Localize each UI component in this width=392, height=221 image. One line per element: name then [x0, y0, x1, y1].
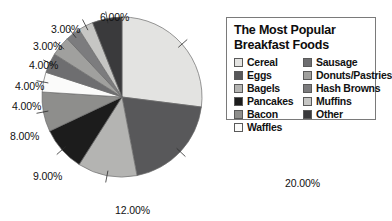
legend-swatch-icon	[234, 123, 243, 132]
pie-percentage-label: 4.00%	[29, 60, 58, 71]
legend-swatch-icon	[234, 84, 243, 93]
legend-swatch-icon	[234, 110, 243, 119]
pie-percentage-label: 3.00%	[33, 41, 62, 52]
legend-item[interactable]: Donuts/Pastries	[303, 70, 369, 82]
legend-item-label: Waffles	[247, 122, 282, 133]
legend: The Most Popular Breakfast Foods CerealE…	[226, 17, 376, 120]
legend-item[interactable]: Pancakes	[234, 96, 297, 108]
legend-item-label: Eggs	[247, 70, 272, 81]
legend-swatch-icon	[303, 97, 312, 106]
legend-swatch-icon	[303, 110, 312, 119]
legend-swatch-icon	[303, 84, 312, 93]
legend-item-label: Bagels	[247, 83, 280, 94]
legend-item[interactable]: Bacon	[234, 109, 297, 121]
legend-item-label: Cereal	[247, 57, 278, 68]
pie-percentage-label: 8.00%	[10, 131, 39, 142]
legend-item[interactable]: Hash Browns	[303, 83, 369, 95]
legend-title-line-1: The Most Popular	[234, 23, 369, 38]
legend-swatch-icon	[234, 71, 243, 80]
legend-item[interactable]: Cereal	[234, 57, 297, 69]
legend-item-label: Donuts/Pastries	[316, 70, 392, 81]
legend-item[interactable]: Waffles	[234, 122, 297, 134]
legend-item-label: Other	[316, 109, 343, 120]
pie-percentage-label: 9.00%	[33, 171, 62, 182]
pie-percentage-label: 20.00%	[285, 178, 320, 189]
legend-item[interactable]: Bagels	[234, 83, 297, 95]
legend-swatch-icon	[234, 97, 243, 106]
legend-swatch-icon	[234, 58, 243, 67]
legend-item[interactable]: Muffins	[303, 96, 369, 108]
legend-item[interactable]: Other	[303, 109, 369, 121]
legend-item[interactable]: Eggs	[234, 70, 297, 82]
pie-percentage-label: 4.00%	[15, 81, 44, 92]
legend-columns: CerealEggsBagelsPancakesBaconWaffles Sau…	[234, 57, 369, 134]
legend-swatch-icon	[303, 58, 312, 67]
pie-percentage-label: 4.00%	[12, 101, 41, 112]
pie-percentage-label: 12.00%	[115, 205, 150, 216]
legend-item-label: Muffins	[316, 96, 352, 107]
pie-percentage-label: 6.00%	[100, 12, 129, 23]
legend-title-line-2: Breakfast Foods	[234, 38, 369, 53]
pie-slice-group	[42, 17, 202, 177]
pie-slice	[122, 17, 202, 107]
legend-swatch-icon	[303, 71, 312, 80]
legend-item-label: Pancakes	[247, 96, 293, 107]
legend-item[interactable]: Sausage	[303, 57, 369, 69]
legend-title: The Most Popular Breakfast Foods	[234, 23, 369, 53]
pie-percentage-label: 3.00%	[51, 24, 80, 35]
legend-item-label: Hash Browns	[316, 83, 380, 94]
legend-item-label: Bacon	[247, 109, 278, 120]
legend-column-left: CerealEggsBagelsPancakesBaconWaffles	[234, 57, 297, 134]
legend-column-right: SausageDonuts/PastriesHash BrownsMuffins…	[303, 57, 369, 134]
legend-item-label: Sausage	[316, 57, 357, 68]
